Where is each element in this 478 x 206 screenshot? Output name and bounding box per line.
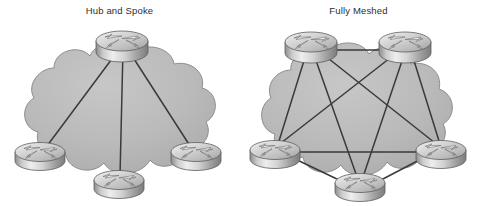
network-topology-figure: Hub and Spoke [0, 0, 478, 206]
hub-and-spoke-canvas [0, 0, 239, 206]
router-icon-spoke3[interactable] [171, 143, 221, 171]
router-icon-r3[interactable] [250, 141, 300, 169]
router-icon-r2[interactable] [379, 32, 431, 63]
fully-meshed-canvas [239, 0, 478, 206]
router-icon-spoke2[interactable] [94, 171, 144, 199]
diagram-panel-hub-and-spoke: Hub and Spoke [0, 0, 239, 206]
router-icon-spoke1[interactable] [15, 143, 65, 171]
router-icon-r5[interactable] [335, 174, 385, 202]
router-icon-r4[interactable] [416, 141, 466, 169]
diagram-panel-fully-meshed: Fully Meshed [239, 0, 478, 206]
router-icon-hub[interactable] [96, 31, 148, 62]
router-icon-r1[interactable] [285, 32, 337, 63]
